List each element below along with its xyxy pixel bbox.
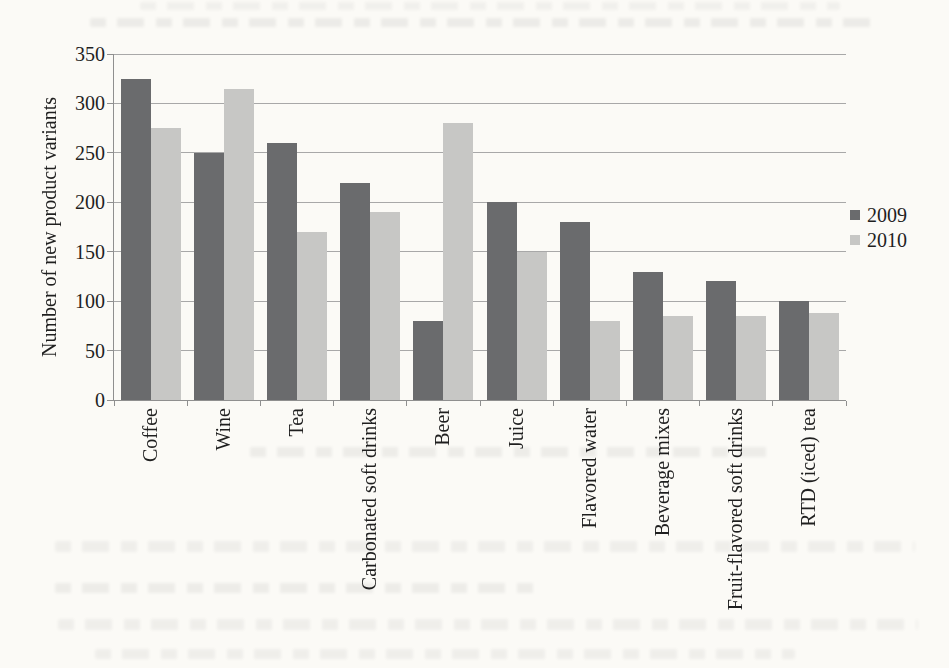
- x-axis-tick: [333, 401, 334, 406]
- x-axis-label-flavored-water: Flavored water: [578, 408, 600, 534]
- y-axis-tick-labels: 050100150200250300350: [30, 54, 105, 400]
- x-axis-label-text: Beer: [431, 408, 453, 446]
- bar-flavored-water-2009: [560, 222, 590, 400]
- x-axis-label-text: Tea: [285, 408, 307, 437]
- bar-wine-2009: [194, 153, 224, 400]
- x-axis-label-juice: Juice: [505, 408, 527, 454]
- legend-label-2009: 2009: [867, 204, 907, 226]
- bar-beverage-mixes-2009: [633, 272, 663, 401]
- bar-group-tea: [260, 54, 333, 400]
- legend: 20092010: [850, 204, 907, 251]
- y-axis-tick-350: [107, 54, 114, 55]
- bar-juice-2009: [487, 202, 517, 400]
- bar-group-carbonated-soft-drinks: [334, 54, 407, 400]
- y-axis-tick-label-150: 150: [30, 239, 105, 265]
- x-axis-label-text: Carbonated soft drinks: [358, 408, 380, 590]
- x-axis-label-beverage-mixes: Beverage mixes: [651, 408, 673, 541]
- y-axis-tick-label-350: 350: [30, 41, 105, 67]
- bar-group-wine: [187, 54, 260, 400]
- x-axis-label-coffee: Coffee: [139, 408, 161, 467]
- bar-rtd-iced-tea-2010: [809, 313, 839, 400]
- legend-swatch-2010: [850, 235, 860, 245]
- scan-bleedthrough-artifact: [140, 2, 840, 10]
- x-axis-labels: CoffeeWineTeaCarbonated soft drinksBeerJ…: [113, 408, 845, 658]
- x-axis-label-carbonated-soft-drinks: Carbonated soft drinks: [358, 408, 380, 595]
- bar-fruit-flavored-soft-drinks-2009: [706, 281, 736, 400]
- x-axis-label-text: Juice: [505, 408, 527, 449]
- x-axis-label-text: Wine: [212, 408, 234, 451]
- y-axis-tick-100: [107, 301, 114, 302]
- x-axis-label-text: Coffee: [139, 408, 161, 462]
- bar-group-juice: [480, 54, 553, 400]
- x-axis-tick: [260, 401, 261, 406]
- legend-label-2010: 2010: [867, 229, 907, 251]
- x-axis-label-text: Fruit-flavored soft drinks: [724, 408, 746, 610]
- x-axis-tick: [187, 401, 188, 406]
- y-axis-tick-label-50: 50: [30, 338, 105, 364]
- bar-group-flavored-water: [553, 54, 626, 400]
- bar-beverage-mixes-2010: [663, 316, 693, 400]
- bar-rtd-iced-tea-2009: [779, 301, 809, 400]
- x-axis-label-text: RTD (iced) tea: [797, 408, 819, 527]
- x-axis-label-beer: Beer: [431, 408, 453, 451]
- x-axis-tick: [553, 401, 554, 406]
- x-axis-tick: [626, 401, 627, 406]
- bar-coffee-2009: [121, 79, 151, 400]
- y-axis-tick-300: [107, 103, 114, 104]
- x-axis-label-wine: Wine: [212, 408, 234, 456]
- bar-group-fruit-flavored-soft-drinks: [700, 54, 773, 400]
- y-axis-tick-label-100: 100: [30, 288, 105, 314]
- bar-group-beer: [407, 54, 480, 400]
- bar-beer-2010: [443, 123, 473, 400]
- legend-swatch-2009: [850, 210, 860, 220]
- bar-group-rtd-iced-tea: [773, 54, 846, 400]
- bar-juice-2010: [517, 252, 547, 400]
- y-axis-tick-200: [107, 202, 114, 203]
- legend-item-2009: 2009: [850, 204, 907, 226]
- x-axis-tick: [480, 401, 481, 406]
- bar-group-beverage-mixes: [626, 54, 699, 400]
- bar-coffee-2010: [151, 128, 181, 400]
- x-axis-tick: [699, 401, 700, 406]
- scanned-book-page: Number of new product variants 050100150…: [0, 0, 949, 668]
- x-axis-tick: [406, 401, 407, 406]
- bar-fruit-flavored-soft-drinks-2010: [736, 316, 766, 400]
- bar-beer-2009: [413, 321, 443, 400]
- bar-carbonated-soft-drinks-2010: [370, 212, 400, 400]
- scan-bleedthrough-artifact: [90, 18, 880, 27]
- bar-group-coffee: [114, 54, 187, 400]
- legend-item-2010: 2010: [850, 229, 907, 251]
- bar-tea-2009: [267, 143, 297, 400]
- x-axis-label-text: Flavored water: [578, 408, 600, 529]
- y-axis-tick-150: [107, 251, 114, 252]
- x-axis-label-rtd-iced-tea: RTD (iced) tea: [797, 408, 819, 532]
- y-axis-tick-250: [107, 152, 114, 153]
- y-axis-tick-label-250: 250: [30, 140, 105, 166]
- x-axis-tick: [114, 401, 115, 406]
- y-axis-tick-label-200: 200: [30, 189, 105, 215]
- bar-tea-2010: [297, 232, 327, 400]
- y-axis-tick-label-0: 0: [30, 387, 105, 413]
- y-axis-tick-50: [107, 350, 114, 351]
- x-axis-label-text: Beverage mixes: [651, 408, 673, 536]
- bar-wine-2010: [224, 89, 254, 400]
- x-axis-label-tea: Tea: [285, 408, 307, 442]
- x-axis-tick: [772, 401, 773, 406]
- bar-flavored-water-2010: [590, 321, 620, 400]
- y-axis-tick-label-300: 300: [30, 90, 105, 116]
- plot-area: [113, 54, 846, 401]
- x-axis-tick: [846, 401, 847, 406]
- x-axis-label-fruit-flavored-soft-drinks: Fruit-flavored soft drinks: [724, 408, 746, 615]
- bar-carbonated-soft-drinks-2009: [340, 183, 370, 400]
